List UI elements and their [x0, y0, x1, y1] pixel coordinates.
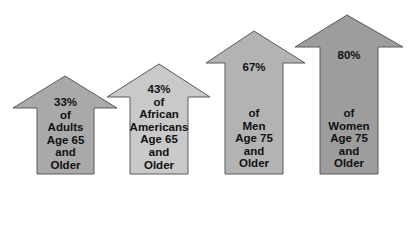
arrow-value-men-75: 67% [225, 61, 283, 74]
arrow-value: 43% [128, 83, 190, 96]
arrow-text-line: Adults [37, 121, 94, 134]
arrow-label-adults-65: 33% of Adults Age 65 and Older [37, 96, 94, 172]
arrow-text-line: Americans [128, 121, 190, 134]
arrow-value: 33% [37, 96, 94, 109]
arrow-text-line: of [225, 107, 283, 120]
arrow-text-line: of [316, 107, 382, 120]
arrow-text-line: Older [316, 157, 382, 170]
arrow-text-line: African [128, 108, 190, 121]
arrow-text-line: Age 75 [225, 132, 283, 145]
arrow-text-line: Older [225, 157, 283, 170]
arrow-text-line: of [128, 96, 190, 109]
arrow-text-line: of [37, 109, 94, 122]
arrow-text-line: Older [128, 159, 190, 172]
arrow-text-line: Age 65 [128, 133, 190, 146]
arrow-text-line: Age 75 [316, 132, 382, 145]
arrow-label-african-americans-65: 43% of African Americans Age 65 and Olde… [128, 83, 190, 171]
arrow-text-line: and [37, 146, 94, 159]
arrow-value: 67% [225, 61, 283, 74]
arrow-text-line: and [128, 146, 190, 159]
arrow-label-men-75: of Men Age 75 and Older [225, 107, 283, 170]
arrow-text-line: Women [316, 120, 382, 133]
arrow-label-women-75: of Women Age 75 and Older [316, 107, 382, 170]
arrow-text-line: Men [225, 120, 283, 133]
arrow-text-line: Older [37, 159, 94, 172]
arrow-text-line: and [225, 145, 283, 158]
arrow-value-women-75: 80% [320, 49, 378, 62]
arrow-value: 80% [320, 49, 378, 62]
arrow-text-line: Age 65 [37, 134, 94, 147]
arrow-text-line: and [316, 145, 382, 158]
